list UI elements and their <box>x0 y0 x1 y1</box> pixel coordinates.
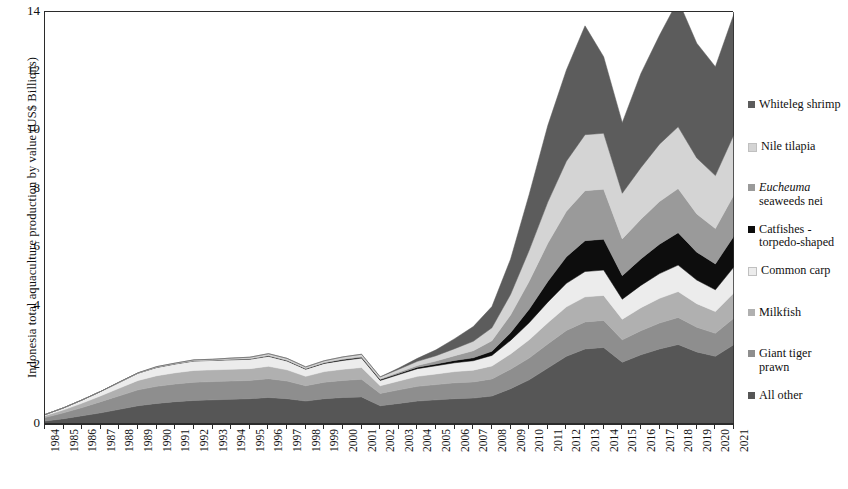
x-tick-mark <box>454 423 455 429</box>
x-tick-label: 1995 <box>254 429 266 452</box>
x-tick-mark <box>733 423 734 429</box>
x-tick-label: 1999 <box>328 429 340 452</box>
x-tick-mark <box>547 423 548 429</box>
x-tick-label: 1994 <box>235 429 247 452</box>
x-tick-label: 2016 <box>645 429 657 452</box>
x-tick-mark <box>491 423 492 429</box>
x-tick-label: 2014 <box>608 429 620 452</box>
x-tick-label: 2010 <box>533 429 545 452</box>
x-tick-label: 2007 <box>477 429 489 452</box>
x-tick-mark <box>286 423 287 429</box>
x-tick-mark <box>472 423 473 429</box>
x-tick-label: 1992 <box>198 429 210 452</box>
x-tick-label: 1996 <box>272 429 284 452</box>
x-tick-label: 2019 <box>701 429 713 452</box>
x-tick-label: 1998 <box>310 429 322 452</box>
x-tick-label: 2008 <box>496 429 508 452</box>
legend-swatch-icon <box>748 309 755 316</box>
legend-item-catfishes[interactable]: Catfishes -torpedo-shaped <box>748 223 834 250</box>
x-axis-line <box>44 423 733 425</box>
x-tick-mark <box>379 423 380 429</box>
x-tick-mark <box>174 423 175 429</box>
x-tick-label: 2018 <box>682 429 694 452</box>
x-tick-label: 2006 <box>459 429 471 452</box>
x-tick-label: 2017 <box>664 429 676 452</box>
legend-swatch-icon <box>748 350 755 357</box>
legend-item-nile-tilapia[interactable]: Nile tilapia <box>748 140 816 154</box>
x-tick-label: 1988 <box>123 429 135 452</box>
y-tick-label: 10 <box>6 121 40 137</box>
legend-item-milkfish[interactable]: Milkfish <box>748 306 801 320</box>
x-tick-mark <box>416 423 417 429</box>
x-tick-mark <box>565 423 566 429</box>
legend-label: All other <box>759 389 803 403</box>
legend-label: Milkfish <box>759 306 801 320</box>
x-tick-label: 2009 <box>515 429 527 452</box>
y-tick-label: 0 <box>6 415 40 431</box>
x-tick-label: 1991 <box>179 429 191 452</box>
aquaculture-stacked-area-figure: Indonesia total aquaculture production b… <box>0 0 848 489</box>
x-tick-mark <box>81 423 82 429</box>
x-tick-label: 2012 <box>570 429 582 452</box>
legend-label: Whiteleg shrimp <box>759 98 841 112</box>
x-tick-label: 2015 <box>626 429 638 452</box>
x-tick-mark <box>267 423 268 429</box>
x-tick-label: 2011 <box>552 429 564 452</box>
legend-item-whiteleg-shrimp[interactable]: Whiteleg shrimp <box>748 98 841 112</box>
x-tick-mark <box>305 423 306 429</box>
x-tick-mark <box>640 423 641 429</box>
x-tick-mark <box>193 423 194 429</box>
x-tick-mark <box>230 423 231 429</box>
x-tick-mark <box>249 423 250 429</box>
x-tick-label: 1984 <box>49 429 61 452</box>
legend-swatch-icon <box>748 143 757 152</box>
x-tick-label: 2004 <box>421 429 433 452</box>
legend-label: Nile tilapia <box>761 140 816 154</box>
x-tick-mark <box>323 423 324 429</box>
legend-label: Common carp <box>761 264 830 278</box>
x-tick-label: 1986 <box>86 429 98 452</box>
x-tick-label: 2001 <box>366 429 378 452</box>
x-tick-mark <box>510 423 511 429</box>
legend-item-common-carp[interactable]: Common carp <box>748 264 830 278</box>
x-tick-mark <box>714 423 715 429</box>
x-tick-label: 1989 <box>142 429 154 452</box>
x-tick-label: 2020 <box>719 429 731 452</box>
y-tick-label: 14 <box>6 3 40 19</box>
x-tick-mark <box>361 423 362 429</box>
legend-item-all-other[interactable]: All other <box>748 389 803 403</box>
legend-swatch-icon <box>748 226 755 233</box>
x-tick-mark <box>435 423 436 429</box>
x-tick-label: 2002 <box>384 429 396 452</box>
y-tick-label: 4 <box>6 297 40 313</box>
x-tick-mark <box>621 423 622 429</box>
legend-label: Eucheumaseaweeds nei <box>759 181 823 208</box>
legend-swatch-icon <box>748 184 755 191</box>
x-tick-mark <box>603 423 604 429</box>
x-tick-mark <box>696 423 697 429</box>
y-tick-label: 12 <box>6 62 40 78</box>
x-tick-mark <box>659 423 660 429</box>
x-tick-label: 1990 <box>161 429 173 452</box>
x-tick-label: 1985 <box>68 429 80 452</box>
x-tick-mark <box>118 423 119 429</box>
x-tick-label: 2005 <box>440 429 452 452</box>
legend-swatch-icon <box>748 267 757 276</box>
stacked-area-series-group <box>45 12 734 424</box>
legend-label: Catfishes -torpedo-shaped <box>759 223 834 250</box>
x-tick-mark <box>212 423 213 429</box>
x-tick-mark <box>137 423 138 429</box>
x-tick-label: 1997 <box>291 429 303 452</box>
x-tick-label: 2021 <box>738 429 750 452</box>
x-tick-mark <box>677 423 678 429</box>
y-tick-label: 2 <box>6 356 40 372</box>
y-tick-label: 8 <box>6 180 40 196</box>
x-tick-label: 2003 <box>403 429 415 452</box>
y-axis-tick-labels: 02468101214 <box>0 0 40 489</box>
x-tick-mark <box>156 423 157 429</box>
x-tick-mark <box>528 423 529 429</box>
legend-item-giant-tiger[interactable]: Giant tigerprawn <box>748 347 811 374</box>
y-tick-label: 6 <box>6 238 40 254</box>
x-tick-label: 1993 <box>217 429 229 452</box>
legend-item-eucheuma[interactable]: Eucheumaseaweeds nei <box>748 181 823 208</box>
